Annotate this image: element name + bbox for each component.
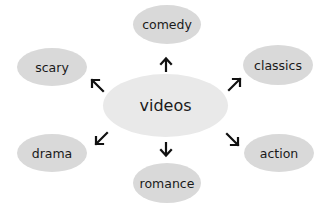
node-drama: drama [17,134,87,172]
arrow-down-left-icon [93,131,109,147]
node-label-romance: romance [140,176,195,191]
node-action: action [244,134,314,172]
arrow-down-right-icon [225,132,241,148]
node-label-classics: classics [254,58,302,73]
node-comedy: comedy [133,5,201,44]
node-classics: classics [243,45,313,85]
arrow-up-icon [158,56,174,72]
node-label-action: action [260,146,298,161]
node-romance: romance [133,163,201,203]
node-scary: scary [17,48,87,86]
arrow-up-right-icon [227,76,243,92]
node-center-videos: videos [103,74,228,137]
center-label: videos [139,96,191,115]
arrow-up-left-icon [89,77,105,93]
node-label-comedy: comedy [142,17,192,32]
node-label-drama: drama [32,146,73,161]
arrow-down-icon [158,142,174,158]
node-label-scary: scary [35,60,69,75]
